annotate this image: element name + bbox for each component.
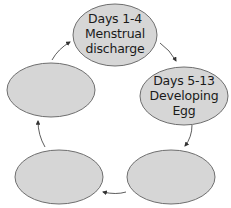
node-right-line-3: Egg [140, 103, 228, 118]
node-right-label: Days 5-13 Developing Egg [140, 73, 228, 118]
node-top-line-3: discharge [73, 41, 157, 56]
node-top-label: Days 1-4 Menstrual discharge [73, 11, 157, 56]
node-right-line-2: Developing [140, 88, 228, 103]
arrow-bottom-left-to-left [38, 121, 45, 147]
node-bottom-left [15, 150, 103, 204]
node-left [7, 63, 95, 117]
node-bottom-right [127, 150, 215, 204]
node-right-line-1: Days 5-13 [140, 73, 228, 88]
arrow-left-to-top [52, 42, 70, 60]
arrow-top-to-right [160, 43, 176, 61]
node-top-line-2: Menstrual [73, 26, 157, 41]
arrow-right-to-bottom-right [185, 125, 192, 146]
node-top-line-1: Days 1-4 [73, 11, 157, 26]
arrow-bottom-right-to-bottom-left [103, 192, 126, 194]
